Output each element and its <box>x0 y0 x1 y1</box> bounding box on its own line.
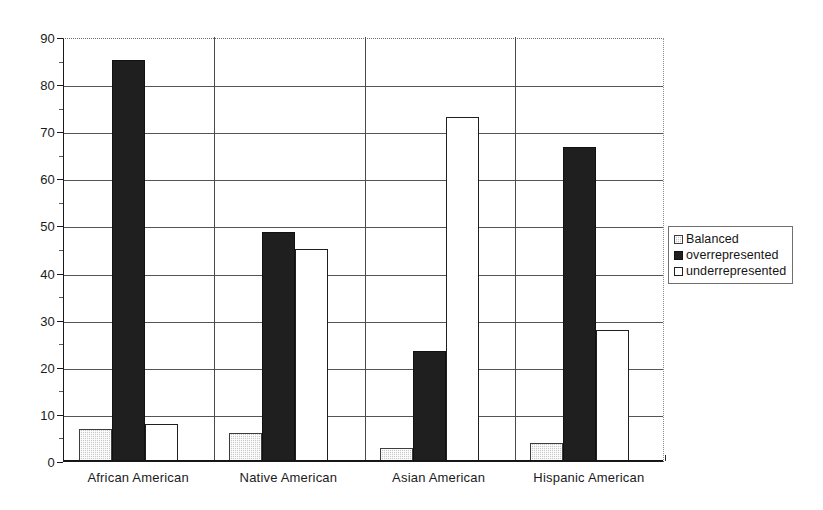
legend-item: overrepresented <box>674 247 786 263</box>
legend-label: underrepresented <box>686 265 786 278</box>
x-axis-labels: African AmericanNative AmericanAsian Ame… <box>63 470 664 492</box>
bar-over <box>112 60 145 461</box>
legend-label: overrepresented <box>686 249 779 262</box>
bar-under <box>145 424 178 461</box>
category-separator <box>214 37 215 461</box>
legend-item: underrepresented <box>674 263 786 279</box>
bar-over <box>563 147 596 461</box>
y-axis-ticks <box>0 38 70 462</box>
bar-under <box>446 117 479 461</box>
category-separator <box>515 37 516 461</box>
x-tick-label: Hispanic American <box>514 470 664 485</box>
bar-chart: 0102030405060708090 African AmericanNati… <box>0 0 823 510</box>
category-separator <box>665 455 666 461</box>
x-axis-line <box>64 460 663 461</box>
legend-item: Balanced <box>674 231 786 247</box>
bar-balanced <box>530 443 563 461</box>
legend-swatch-overrepresented-icon <box>674 251 683 260</box>
x-tick-label: Native American <box>213 470 363 485</box>
bar-over <box>413 351 446 461</box>
bar-balanced <box>229 433 262 461</box>
bar-over <box>262 232 295 461</box>
legend-swatch-underrepresented-icon <box>674 267 683 276</box>
bar-under <box>295 249 328 461</box>
bar-under <box>596 330 629 461</box>
legend-swatch-balanced-icon <box>674 235 683 244</box>
chart-legend: Balanced overrepresented underrepresente… <box>668 226 793 284</box>
x-tick-label: African American <box>63 470 213 485</box>
gridline <box>64 86 663 87</box>
y-tick-mark <box>57 462 63 463</box>
legend-label: Balanced <box>686 233 739 246</box>
plot-area <box>63 38 664 462</box>
category-separator <box>365 37 366 461</box>
bar-balanced <box>79 429 112 461</box>
gridline <box>64 133 663 134</box>
x-tick-label: Asian American <box>364 470 514 485</box>
